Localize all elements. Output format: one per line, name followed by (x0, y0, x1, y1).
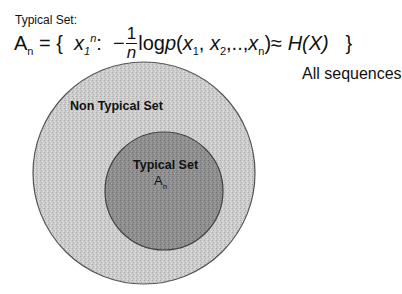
close-brace: } (345, 32, 352, 54)
fraction-numerator: 1 (126, 25, 137, 43)
element-var: x1n (74, 32, 96, 54)
minus-sign: − (113, 32, 125, 54)
typical-set-circle (105, 132, 223, 250)
log-text: log (138, 32, 165, 54)
typical-set-formula: An = { x1n: −1nlogp(x1, x2,..,xn)≈ H(X) … (14, 26, 352, 66)
approx-sign: ≈ (271, 32, 282, 54)
arg2: x (210, 32, 220, 54)
typical-set-symbol: An (154, 173, 167, 191)
formula-lhs: An (14, 32, 33, 54)
element-var-symbol: x (74, 32, 84, 54)
element-var-sub: 1 (84, 45, 90, 57)
lhs-symbol: A (14, 32, 27, 54)
typical-symbol-letter: A (154, 173, 163, 188)
typical-set-title: Typical Set: (15, 13, 77, 27)
open-brace: { (56, 32, 63, 54)
entropy-term: H(X) (288, 32, 329, 54)
fraction-one-over-n: 1n (126, 25, 137, 62)
lhs-subscript: n (27, 45, 33, 57)
probability-symbol: p (165, 32, 176, 54)
equals-sign: = (39, 32, 51, 54)
all-sequences-label: All sequences (302, 65, 402, 83)
arg1: x (183, 32, 193, 54)
fraction-denominator: n (126, 44, 137, 62)
args-open: ( (176, 32, 183, 54)
non-typical-set-label: Non Typical Set (70, 99, 163, 113)
ellipsis: ,.., (226, 32, 248, 54)
typical-symbol-sub: n (163, 182, 167, 191)
colon: : (96, 32, 102, 54)
argn: x (248, 32, 258, 54)
typical-set-label: Typical Set (133, 158, 197, 172)
comma: , (199, 32, 210, 54)
